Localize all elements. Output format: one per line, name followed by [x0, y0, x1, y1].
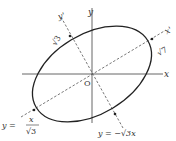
- vertex-dot-y-prime-top: [69, 35, 72, 38]
- x-prime-axis-label: x': [163, 25, 173, 36]
- vertex-dot-x-prime-right: [151, 38, 154, 41]
- major-axis-length-label: √7: [156, 45, 169, 58]
- minor-axis-length-label: √3: [50, 34, 63, 47]
- vertex-dot-y-prime-bottom: [114, 113, 117, 116]
- ellipse-diagram: y x O y' x' √3 √7 y = x √3 y = −√3x: [0, 0, 176, 141]
- y-axis-label: y: [87, 7, 94, 17]
- y-prime-equation: y = −√3x: [97, 129, 136, 138]
- vertex-dot-x-prime-left: [33, 109, 36, 112]
- x-prime-equation-den: √3: [26, 127, 36, 136]
- x-prime-equation-num: x: [29, 115, 34, 124]
- x-axis-label: x: [164, 69, 169, 79]
- origin-label: O: [84, 79, 91, 88]
- x-prime-equation-lhs: y =: [1, 121, 16, 130]
- y-prime-axis-label: y': [56, 11, 66, 22]
- x-prime-axis: [21, 30, 166, 117]
